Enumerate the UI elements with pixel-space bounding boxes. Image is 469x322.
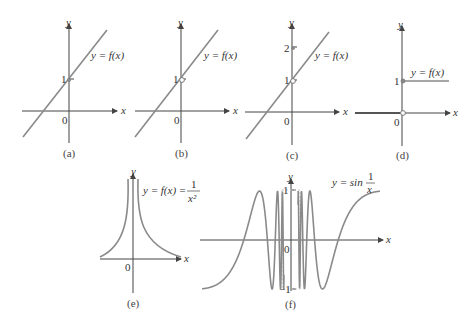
y-axis-label: y xyxy=(177,16,183,28)
curve-left-branch xyxy=(100,179,128,257)
x-axis-label: x xyxy=(452,106,458,118)
panel-d: y x 0 1 y = f(x) (d) xyxy=(355,18,458,162)
y-tick-label-2: 2 xyxy=(284,42,290,54)
function-label: y = f(x) xyxy=(410,66,444,79)
caption: (f) xyxy=(285,298,296,311)
panel-c: y x 0 1 2 y = f(x) (c) xyxy=(245,16,348,162)
origin-label: 0 xyxy=(284,115,290,127)
origin-label: 0 xyxy=(125,261,131,273)
y-tick-label: 1 xyxy=(173,73,179,85)
fraction-denominator: x xyxy=(366,183,372,195)
fraction-denominator: x² xyxy=(187,192,197,204)
origin-label: 0 xyxy=(394,116,400,128)
function-label: y = f(x) xyxy=(203,49,237,62)
x-axis-label: x xyxy=(183,252,189,264)
panel-f: y x 0 1 −1 y = sin 1 x (f) xyxy=(200,170,391,311)
caption: (d) xyxy=(396,149,409,162)
x-axis-label: x xyxy=(120,104,126,116)
open-circle-origin xyxy=(401,111,406,116)
caption: (e) xyxy=(127,297,140,310)
y-tick-label: 1 xyxy=(61,73,67,85)
y-axis-label: y xyxy=(130,165,136,177)
origin-label: 0 xyxy=(174,114,180,126)
y-axis-label: y xyxy=(65,16,71,28)
y-tick-label-1: 1 xyxy=(284,74,290,86)
function-label: y = f(x) xyxy=(90,49,124,62)
open-circle-hole xyxy=(180,78,185,83)
point-0-1 xyxy=(401,79,405,83)
fraction-numerator: 1 xyxy=(191,178,197,190)
point-0-1 xyxy=(67,78,71,82)
limits-figure: y x 0 1 y = f(x) (a) y x 0 1 y = f(x) (b… xyxy=(0,0,469,322)
y-axis-label: y xyxy=(288,16,294,28)
point-0-2 xyxy=(291,46,295,50)
y-tick-label: 1 xyxy=(394,75,400,87)
y-tick-label-neg1: −1 xyxy=(279,283,291,295)
x-axis-label: x xyxy=(385,233,391,245)
panel-e: y x 0 y = f(x) = 1 x² (e) xyxy=(100,165,200,310)
origin-label: 0 xyxy=(284,243,290,255)
origin-label: 0 xyxy=(62,114,68,126)
panel-a: y x 0 1 y = f(x) (a) xyxy=(22,16,126,160)
caption: (b) xyxy=(175,147,188,160)
x-axis-label: x xyxy=(342,105,348,117)
caption: (a) xyxy=(63,147,76,160)
fraction-numerator: 1 xyxy=(368,170,374,182)
x-axis-label: x xyxy=(232,104,238,116)
y-axis-label: y xyxy=(287,170,293,182)
y-axis-label: y xyxy=(397,18,403,30)
function-label: y = f(x) xyxy=(314,49,348,62)
function-label: y = sin xyxy=(331,176,363,188)
caption: (c) xyxy=(286,149,299,162)
y-tick-label-1: 1 xyxy=(283,184,289,196)
function-label: y = f(x) = xyxy=(142,184,186,197)
panel-b: y x 0 1 y = f(x) (b) xyxy=(135,16,238,160)
open-circle-hole xyxy=(291,79,296,84)
